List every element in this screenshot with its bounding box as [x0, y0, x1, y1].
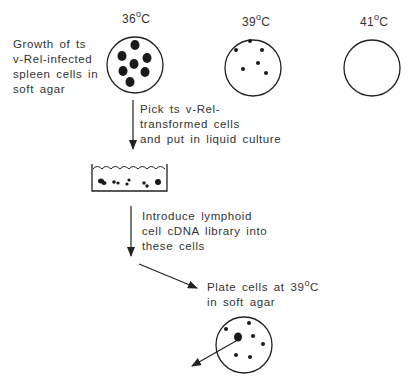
plate-label: Plate cells at 39oC in soft agar: [207, 276, 319, 310]
growth-label: Growth of ts v-Rel-infected spleen cells…: [13, 37, 98, 97]
temp-label-36: 36oC: [122, 10, 150, 26]
arrow-pick-colony: [192, 341, 236, 366]
dish-41c: [344, 40, 400, 96]
dish-plate-39c: [216, 317, 272, 373]
dish-36c: [107, 37, 163, 93]
temp-label-39: 39oC: [242, 13, 270, 29]
temp-label-41: 41oC: [360, 13, 388, 29]
introduce-label: Introduce lymphoid cell cDNA library int…: [142, 209, 267, 254]
pick-label: Pick ts v-Rel- transformed cells and put…: [140, 102, 281, 147]
dish-39c: [225, 39, 281, 96]
arrow-plate: [139, 264, 197, 288]
liquid-culture-flask: [92, 164, 167, 191]
